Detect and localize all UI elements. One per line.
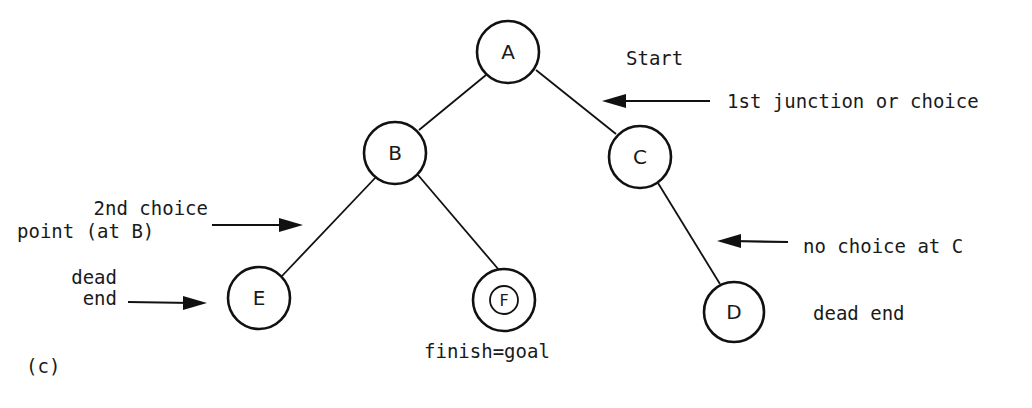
label-second-choice-line1: 2nd choice [94, 197, 208, 219]
arrow-right-icon [279, 218, 303, 232]
label-finish-goal: finish=goal [424, 340, 550, 362]
figure-label: (c) [26, 355, 60, 377]
label-dead-end-e-line1: dead [71, 266, 117, 288]
label-dead-end-d: dead end [813, 302, 905, 324]
node-d: D [704, 282, 764, 342]
edge-a-b [419, 75, 486, 130]
node-e-label: E [253, 286, 266, 310]
arrow-first-junction [602, 94, 710, 108]
node-f-label: F [499, 291, 508, 310]
edge-b-f [418, 175, 499, 270]
label-no-choice-c: no choice at C [803, 235, 963, 257]
label-second-choice-line2: point (at B) [17, 220, 154, 242]
arrow-left-icon [717, 234, 741, 248]
edge-c-d [658, 183, 720, 284]
arrow-right-icon [183, 296, 207, 310]
label-first-junction: 1st junction or choice [727, 90, 979, 112]
node-e: E [228, 267, 290, 329]
arrow-left-icon [602, 94, 626, 108]
maze-decision-tree-diagram: A B C E F D Start 1st junction or choice [0, 0, 1032, 408]
arrow-dead-end-e [128, 296, 207, 310]
node-a-label: A [501, 40, 515, 64]
edge-a-c [536, 70, 616, 134]
label-start: Start [626, 47, 683, 69]
label-dead-end-e-line2: end [83, 287, 117, 309]
node-d-label: D [726, 300, 741, 324]
node-a: A [477, 21, 539, 83]
node-f-goal: F [473, 269, 535, 331]
node-b-label: B [388, 141, 402, 165]
node-c-label: C [633, 145, 647, 169]
node-c: C [609, 126, 671, 188]
node-b: B [364, 122, 426, 184]
arrow-no-choice-c [717, 234, 788, 248]
arrow-second-choice [212, 218, 303, 232]
